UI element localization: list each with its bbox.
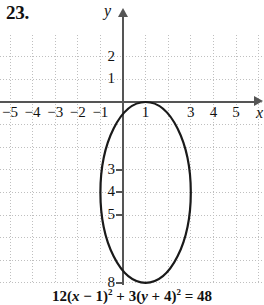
equation-caption: 12(x − 1)2 + 3(y + 4)2 = 48 bbox=[0, 287, 264, 305]
equation-rhs: 48 bbox=[197, 288, 212, 304]
equation-coef-x: 12 bbox=[52, 288, 67, 304]
equation-x-var: x bbox=[72, 288, 80, 304]
ellipse-curve bbox=[0, 0, 264, 285]
equation-y-var: y bbox=[141, 288, 148, 304]
equation-y-shift: + 4 bbox=[152, 288, 172, 304]
graph-figure: y x −5−4−3−2−11345 213458 bbox=[0, 0, 264, 285]
equation-x-shift: − 1 bbox=[83, 288, 103, 304]
